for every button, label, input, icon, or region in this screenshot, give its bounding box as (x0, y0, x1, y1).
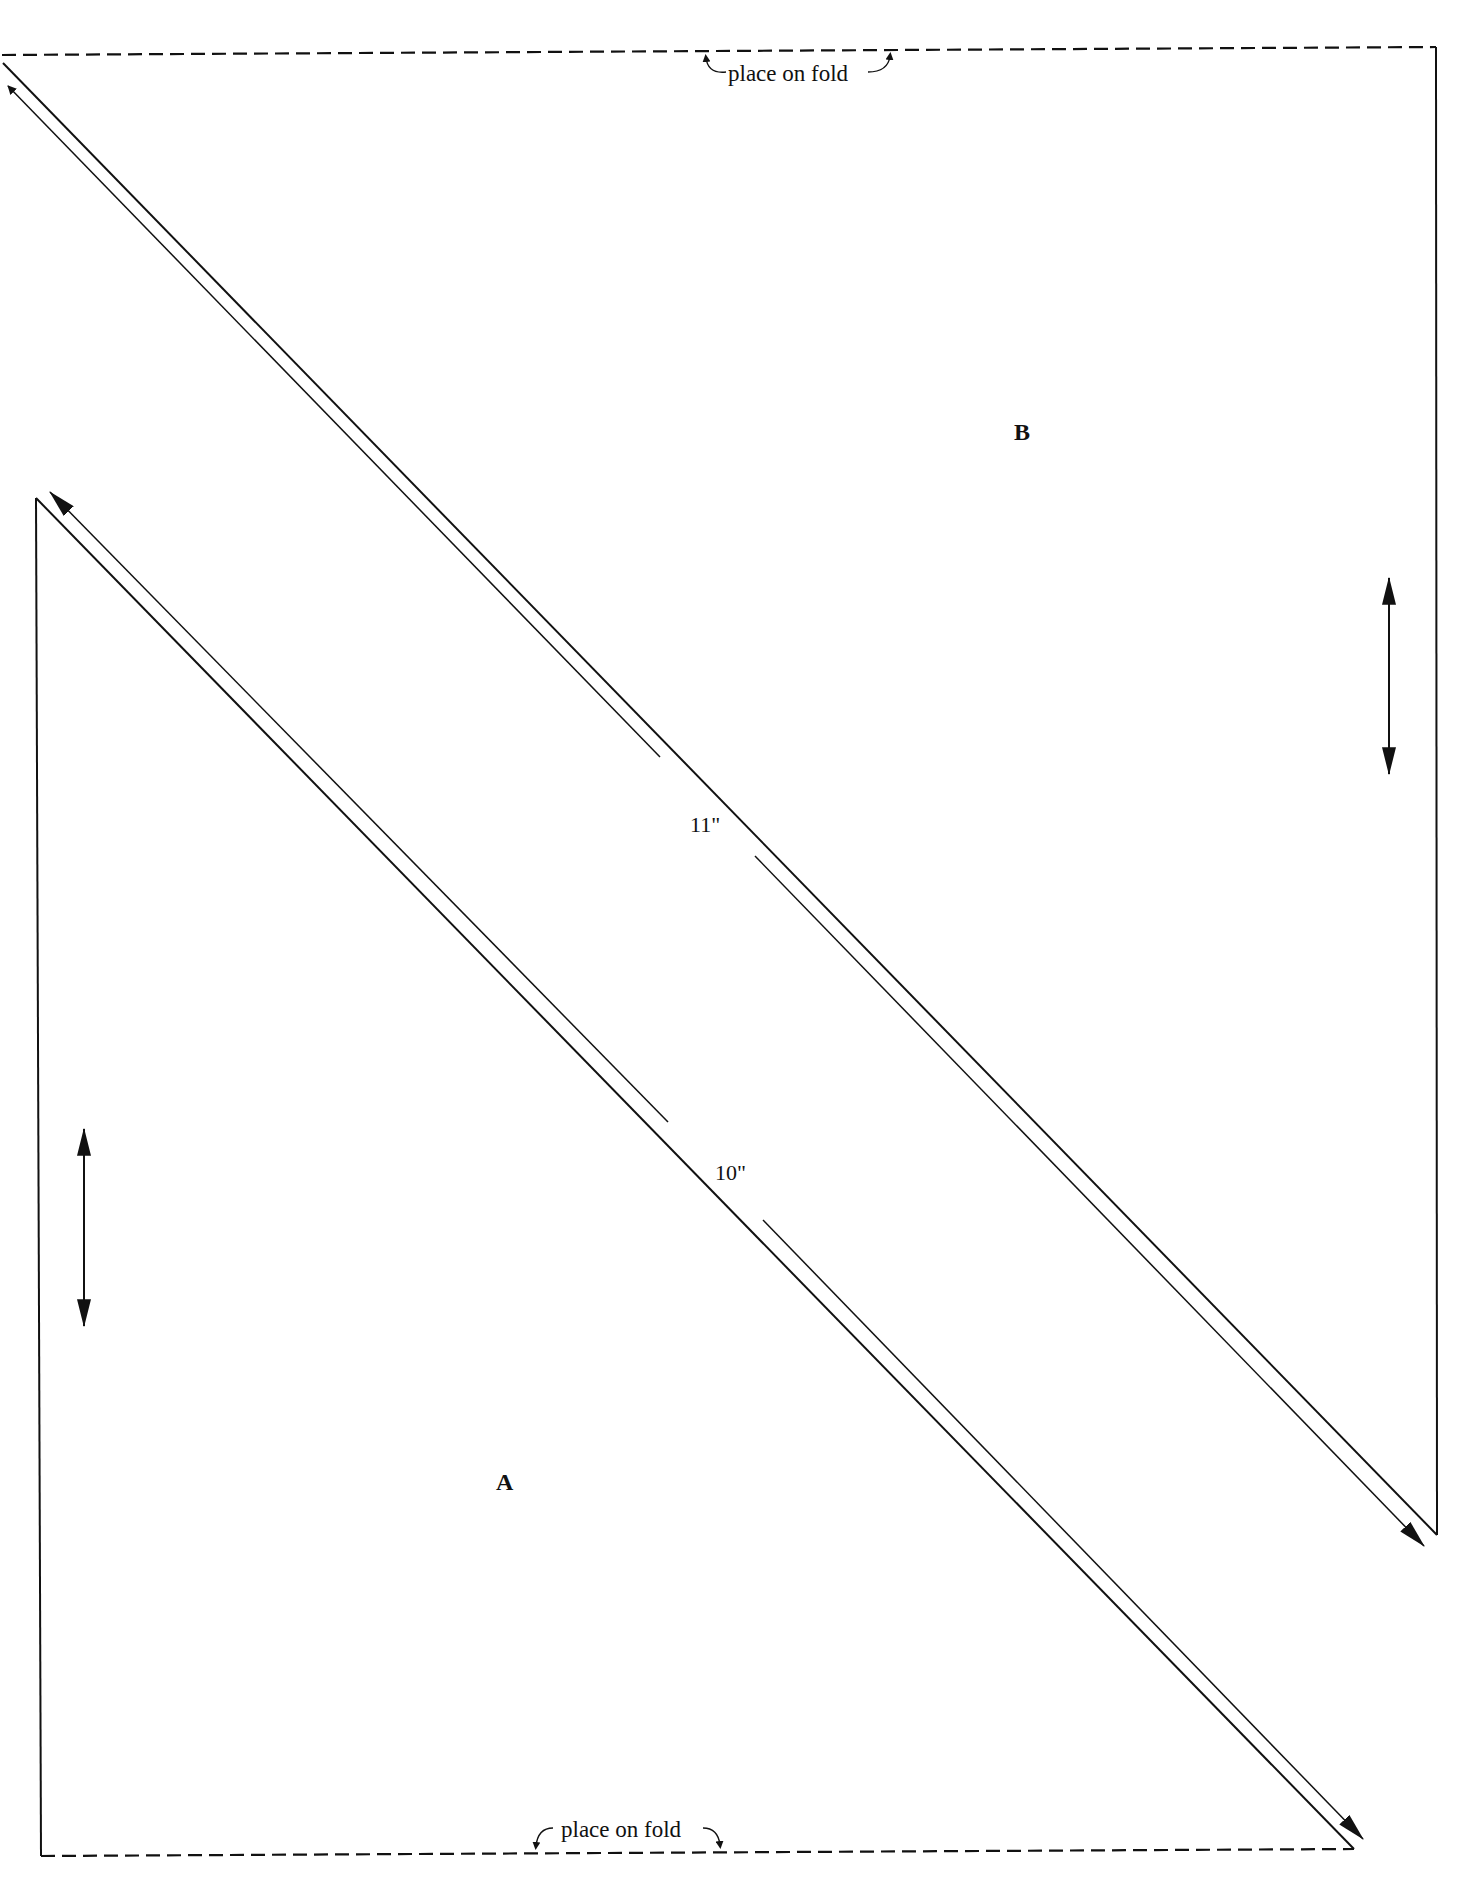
piece-a: 10" A place on fold (36, 492, 1363, 1856)
piece-b-right-edge (1436, 47, 1437, 1535)
piece-a-diagonal-edge (36, 498, 1354, 1849)
piece-b: 11" B place on fold (2, 47, 1437, 1546)
dimension-label-a: 10" (715, 1160, 746, 1185)
dimension-label-b: 11" (690, 812, 720, 837)
fold-label-top: place on fold (706, 56, 890, 86)
curl-arrow-right-icon (868, 56, 890, 72)
pattern-diagram: 11" B place on fold 10" A place on fold (0, 0, 1480, 1894)
dimension-arrow-b-end (755, 856, 1424, 1546)
piece-label-b: B (1014, 419, 1030, 445)
dimension-arrow-b-start (8, 86, 660, 757)
piece-a-left-edge (36, 498, 41, 1856)
piece-label-a: A (496, 1469, 514, 1495)
dimension-arrow-a-end (763, 1220, 1363, 1839)
fold-line-top (2, 47, 1436, 55)
piece-b-diagonal-edge (3, 63, 1437, 1535)
curl-arrow-left-icon (706, 58, 726, 72)
curl-arrow-right-icon (703, 1828, 720, 1845)
dimension-arrow-a-start (50, 492, 668, 1122)
fold-label-top-text: place on fold (728, 61, 849, 86)
fold-label-bottom-text: place on fold (561, 1817, 682, 1842)
curl-arrow-left-icon (536, 1828, 553, 1846)
fold-label-bottom: place on fold (536, 1817, 720, 1846)
fold-line-bottom (41, 1849, 1354, 1856)
